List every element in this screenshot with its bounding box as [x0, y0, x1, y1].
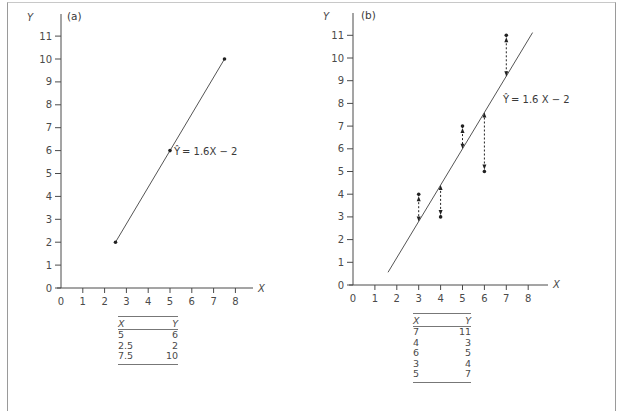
data-table-b: X Y 711 43 65 34 57: [413, 313, 471, 383]
table-header-y: Y: [151, 317, 178, 330]
equation-label-a: Ŷ = 1.6X − 2: [173, 145, 237, 157]
svg-text:Ŷ: Ŷ: [173, 145, 181, 157]
table-row: 34: [413, 359, 471, 370]
table-row: 65: [413, 348, 471, 359]
table-header-x: X: [413, 314, 433, 327]
y-axis-label-b: Y: [323, 11, 330, 22]
table-row: 57: [413, 369, 471, 382]
y-axis-label-a: Y: [27, 12, 34, 23]
table-row: 7.510: [118, 351, 178, 364]
table-header-y: Y: [433, 314, 471, 327]
svg-text:= 1.6X − 2: = 1.6X − 2: [182, 146, 237, 157]
table-row: 43: [413, 338, 471, 349]
equation-label-b: Ŷ = 1.6 X − 2: [502, 93, 570, 105]
svg-text:Ŷ: Ŷ: [502, 93, 510, 105]
x-axis-label-a: X: [257, 283, 266, 294]
chart-text-layer: (a) Y X Ŷ = 1.6X − 2 (b) Y X Ŷ = 1.6 X −…: [0, 0, 624, 411]
data-table-a: X Y 56 2.52 7.510: [118, 316, 178, 365]
svg-text:= 1.6 X − 2: = 1.6 X − 2: [511, 94, 570, 105]
table-row: 711: [413, 327, 471, 338]
table-header-x: X: [118, 317, 151, 330]
x-axis-label-b: X: [552, 279, 561, 290]
table-row: 56: [118, 330, 178, 341]
panel-label-a: (a): [67, 10, 82, 22]
panel-label-b: (b): [361, 9, 376, 21]
